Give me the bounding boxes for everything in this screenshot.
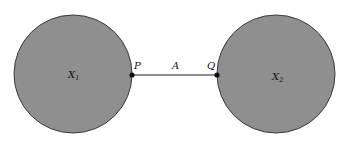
point-p-label: P [133, 60, 141, 71]
two-spaces-joined-by-arc-diagram: X1 X2 P Q A [0, 0, 349, 145]
point-q-dot [214, 72, 219, 77]
arc-a-label: A [171, 60, 179, 71]
point-p-dot [129, 72, 134, 77]
point-q-label: Q [207, 60, 215, 71]
